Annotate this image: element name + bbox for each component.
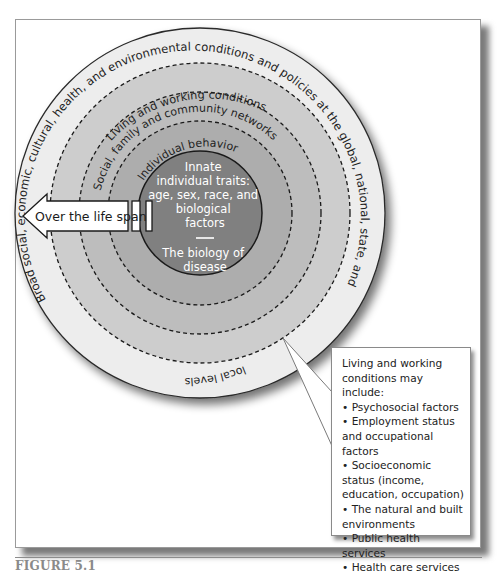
arrow-bar-2 bbox=[146, 201, 152, 231]
callout-item: Psychosocial factors bbox=[342, 400, 466, 415]
callout-item: The natural and built environments bbox=[342, 502, 466, 531]
life-span-label: Over the life span bbox=[35, 209, 147, 224]
callout-heading: Living and working conditions may includ… bbox=[342, 356, 466, 400]
figure-caption: FIGURE 5.1 bbox=[15, 559, 96, 573]
callout-item: Socioeconomic status (income, education,… bbox=[342, 458, 466, 502]
callout-item: Employment status and occupational facto… bbox=[342, 414, 466, 458]
callout-box: Living and working conditions may includ… bbox=[331, 347, 471, 536]
callout-item: Public health services bbox=[342, 531, 466, 560]
caption-rule bbox=[15, 557, 482, 558]
life-span-arrow: Over the life span bbox=[23, 194, 152, 238]
callout-item: Health care services bbox=[342, 560, 466, 575]
